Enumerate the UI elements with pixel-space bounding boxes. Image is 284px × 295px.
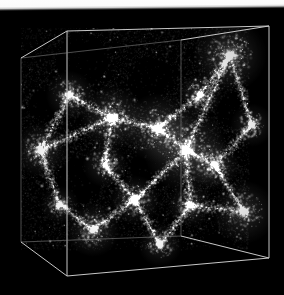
simulation-box-wireframe	[0, 0, 284, 295]
figure-canvas	[0, 0, 284, 295]
